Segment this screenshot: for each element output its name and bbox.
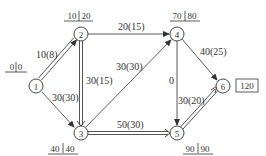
edge-2-4: 20(15) [88,21,169,34]
node-1: 1 [29,79,43,93]
node-4: 4 [170,27,184,41]
early-time-3: 40 [51,144,61,154]
edge-label-2-4: 20(15) [118,21,145,33]
time-label-node-5: 90 90 [183,143,213,154]
node-2: 2 [74,27,88,41]
late-time-2: 20 [82,11,92,21]
time-label-node-1: 0 0 [5,62,27,72]
late-time-1: 0 [18,62,23,72]
edge-5-6: 30(20) [178,86,218,129]
node-label-5: 5 [175,129,180,139]
node-label-2: 2 [79,30,84,40]
late-time-4: 80 [188,11,198,21]
time-label-node-2: 10 20 [64,11,93,21]
node-6: 6 [216,79,230,93]
time-label-node-3: 40 40 [48,143,78,154]
edge-label-4-6: 40(25) [200,46,227,58]
edge-3-5: 50(30) [88,119,170,137]
node-label-4: 4 [175,30,180,40]
late-time-3: 40 [66,144,76,154]
early-time-2: 10 [68,11,78,21]
edge-label-3-5: 50(30) [117,119,144,131]
finish-time-6: 120 [240,81,254,91]
node-5: 5 [170,126,184,140]
time-label-node-6: 120 [236,79,258,92]
node-label-6: 6 [221,82,226,92]
node-3: 3 [74,126,88,140]
edge-label-5-6: 30(20) [178,95,205,107]
edge-label-4-5: 0 [169,75,174,86]
edges: 10(8) 30(30) 20(15) 30(15) 30(30) [36,21,227,137]
node-label-1: 1 [34,82,39,92]
network-diagram: 10(8) 30(30) 20(15) 30(15) 30(30) [0,0,266,156]
edge-1-2: 10(8) [36,38,77,80]
edge-label-3-4: 30(30) [116,61,143,73]
edge-label-1-3: 30(30) [52,92,79,104]
edge-label-2-3: 30(15) [86,75,113,87]
edge-4-6: 40(25) [182,39,227,80]
edge-4-5: 0 [169,41,177,125]
time-label-node-4: 70 80 [170,11,200,21]
early-time-1: 0 [10,62,15,72]
edge-1-3: 30(30) [42,92,79,127]
late-time-5: 90 [201,144,211,154]
node-label-3: 3 [79,129,84,139]
early-time-5: 90 [186,144,196,154]
edge-2-3: 30(15) [77,41,113,126]
edge-label-1-2: 10(8) [36,49,58,61]
early-time-4: 70 [173,11,183,21]
